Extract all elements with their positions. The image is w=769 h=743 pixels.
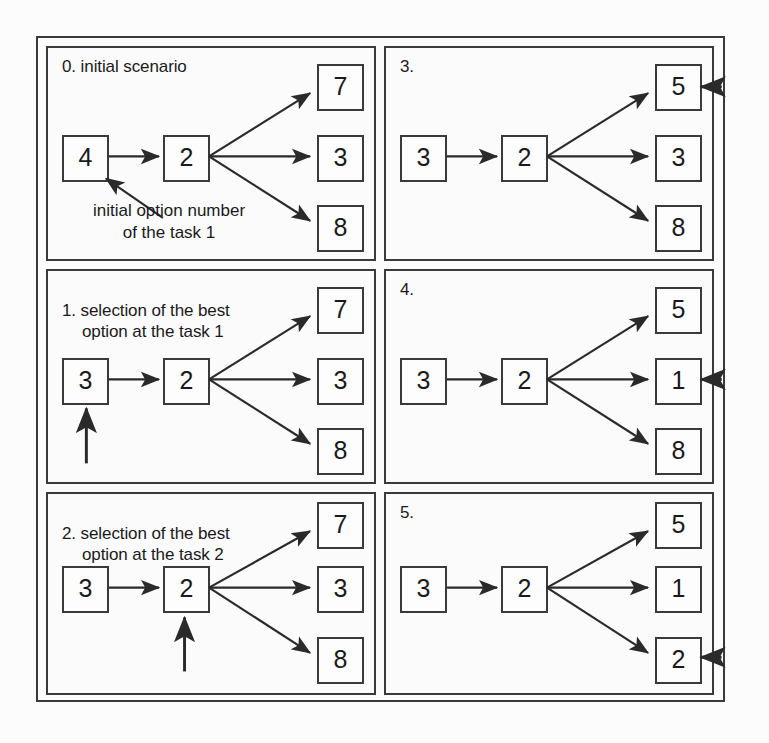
panel-0-title: 0. initial scenario <box>62 56 187 77</box>
panel-1-source-node: 3 <box>62 358 109 405</box>
panel-0-middle-node: 2 <box>163 135 210 182</box>
panel-2-option-top-node: 7 <box>317 502 364 549</box>
panel-3-middle-node: 2 <box>501 135 548 182</box>
panel-4-title: 4. <box>400 279 414 300</box>
panel-1-option-bot-node: 8 <box>317 428 364 475</box>
panel-4-option-top-node: 5 <box>655 287 702 334</box>
panel-5-option-mid-node: 1 <box>655 566 702 613</box>
figure-canvas: 0. initial scenario 4 2 7 3 8 initial op… <box>0 0 769 743</box>
panel-1-option-mid-node: 3 <box>317 358 364 405</box>
panel-1-title-line1: 1. selection of the best <box>62 301 230 320</box>
panel-4-middle-node: 2 <box>501 358 548 405</box>
panel-1-middle-node: 2 <box>163 358 210 405</box>
panel-3-option-bot-node: 8 <box>655 205 702 252</box>
panel-4: 4. 3 2 5 1 8 <box>384 269 714 484</box>
panel-4-source-node: 3 <box>400 358 447 405</box>
panel-2-middle-node: 2 <box>163 566 210 613</box>
panel-2-best-option-task-2: 2. selection of the best option at the t… <box>46 492 376 695</box>
panel-0-option-bot-node: 8 <box>317 205 364 252</box>
panel-5-option-bot-node: 2 <box>655 637 702 684</box>
panel-5-title: 5. <box>400 502 414 523</box>
panel-0-option-top-node: 7 <box>317 64 364 111</box>
panel-5-option-top-node: 5 <box>655 502 702 549</box>
panel-1-title-line2: option at the task 1 <box>62 321 312 342</box>
panel-3-option-mid-node: 3 <box>655 135 702 182</box>
panel-3-title: 3. <box>400 56 414 77</box>
panel-3: 3. 3 2 5 3 8 <box>384 46 714 261</box>
panel-2-option-mid-node: 3 <box>317 566 364 613</box>
panel-0-initial-scenario: 0. initial scenario 4 2 7 3 8 initial op… <box>46 46 376 261</box>
panel-5: 5. 3 2 5 1 2 <box>384 492 714 695</box>
panel-2-title-line2: option at the task 2 <box>62 544 312 565</box>
panel-5-source-node: 3 <box>400 566 447 613</box>
panel-1-best-option-task-1: 1. selection of the best option at the t… <box>46 269 376 484</box>
panel-3-option-top-node: 5 <box>655 64 702 111</box>
panel-1-title: 1. selection of the best option at the t… <box>62 279 312 363</box>
panel-0-annotation: initial option number of the task 1 <box>54 200 284 244</box>
panel-4-option-bot-node: 8 <box>655 428 702 475</box>
panel-0-option-mid-node: 3 <box>317 135 364 182</box>
panel-1-option-top-node: 7 <box>317 287 364 334</box>
panel-2-option-bot-node: 8 <box>317 637 364 684</box>
panel-2-title-line1: 2. selection of the best <box>62 524 230 543</box>
panel-5-middle-node: 2 <box>501 566 548 613</box>
panel-4-option-mid-node: 1 <box>655 358 702 405</box>
panel-0-source-node: 4 <box>62 135 109 182</box>
panel-2-source-node: 3 <box>62 566 109 613</box>
panel-3-source-node: 3 <box>400 135 447 182</box>
